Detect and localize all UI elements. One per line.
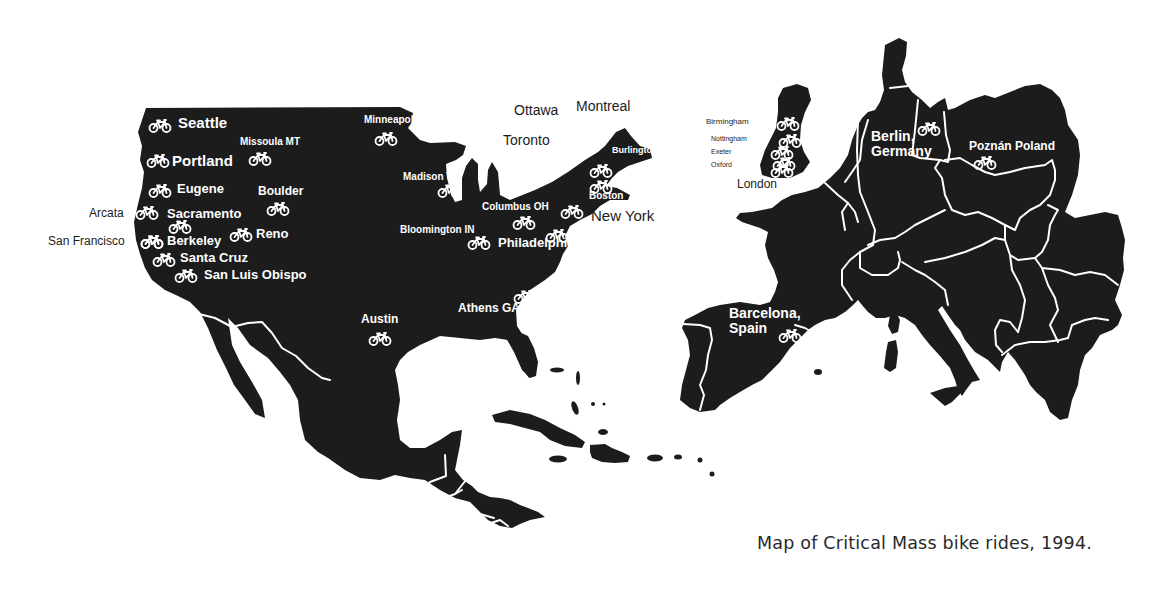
bicycle-icon — [973, 156, 997, 170]
city-label: Berkeley — [167, 234, 221, 247]
city-name: Seattle — [178, 115, 227, 130]
map-caption: Map of Critical Mass bike rides, 1994. — [757, 533, 1092, 553]
city-name: Reno — [256, 227, 289, 240]
city-name: Sacramento — [167, 207, 241, 220]
city-name: San Francisco — [48, 235, 125, 247]
bicycle-icon — [437, 184, 461, 198]
city-label: Montreal — [576, 99, 630, 113]
city-label: Nottingham — [711, 135, 747, 142]
city-label: Arcata — [89, 207, 124, 219]
caribbean-islands — [492, 368, 715, 477]
city-label: Berlin,Germany — [871, 129, 932, 158]
europe-landmass — [680, 38, 1125, 420]
bicycle-icon — [248, 152, 272, 166]
bicycle-icon — [266, 202, 290, 216]
city-label: Birmingham — [706, 118, 749, 126]
city-name: Athens GA — [458, 302, 520, 314]
city-name: Boston — [589, 191, 623, 201]
bicycle-icon — [374, 132, 398, 146]
city-label: Ottawa — [514, 103, 558, 117]
city-label: Santa Cruz — [180, 251, 248, 264]
bicycle-icon — [770, 164, 794, 178]
city-name: London — [737, 178, 777, 190]
bicycle-icon — [148, 184, 172, 198]
bicycle-icon — [148, 119, 172, 133]
city-name: San Luis Obispo — [204, 268, 307, 281]
bicycle-icon — [229, 228, 253, 242]
city-label: Exeter — [711, 148, 731, 155]
city-label: Madison WI — [403, 172, 459, 182]
bicycle-icon — [589, 164, 613, 178]
city-name: Bloomington IN — [400, 225, 474, 235]
city-label: Barcelona,Spain — [729, 306, 801, 335]
city-name: New York — [591, 208, 654, 223]
city-name: Austin — [361, 313, 398, 325]
city-label: San Francisco — [48, 235, 125, 247]
city-label: Portland — [172, 153, 233, 168]
city-name: Berkeley — [167, 234, 221, 247]
city-name: Exeter — [711, 148, 731, 155]
bicycle-icon — [560, 205, 584, 219]
city-name: Minneapolis — [364, 115, 422, 125]
bicycle-icon — [152, 253, 176, 267]
city-name: Montreal — [576, 99, 630, 113]
city-label: Missoula MT — [240, 137, 300, 147]
bicycle-icon — [135, 206, 159, 220]
city-name: Arcata — [89, 207, 124, 219]
city-label: San Luis Obispo — [204, 268, 307, 281]
city-label: Minneapolis — [364, 115, 422, 125]
city-label: Austin — [361, 313, 398, 325]
city-label: Seattle — [178, 115, 227, 130]
city-name: Nottingham — [711, 135, 747, 142]
bicycle-icon — [140, 235, 164, 249]
city-label: New York — [591, 208, 654, 223]
city-name: Eugene — [177, 182, 224, 195]
city-name: Columbus OH — [482, 202, 549, 212]
bicycle-icon — [532, 150, 556, 164]
city-label: Poznán Poland — [969, 140, 1055, 152]
bicycle-icon — [368, 332, 392, 346]
city-name: Oxford — [711, 161, 732, 168]
city-label: Columbus OH — [482, 202, 549, 212]
city-label: Boulder — [258, 185, 303, 197]
bicycle-icon — [583, 117, 607, 131]
bicycle-icon — [467, 236, 491, 250]
city-name: Portland — [172, 153, 233, 168]
city-name: Burlington, VT — [612, 146, 674, 155]
city-label: London — [737, 178, 777, 190]
city-name: Boulder — [258, 185, 303, 197]
city-name: Poznán Poland — [969, 140, 1055, 152]
world-map — [0, 0, 1167, 596]
city-label: Reno — [256, 227, 289, 240]
bicycle-icon — [512, 216, 536, 230]
city-name: Madison WI — [403, 172, 459, 182]
city-name: Barcelona,Spain — [729, 306, 801, 335]
city-label: Boston — [589, 191, 623, 201]
city-label: Oxford — [711, 161, 732, 168]
city-label: Athens GA — [458, 302, 520, 314]
city-label: Eugene — [177, 182, 224, 195]
city-label: Philadelphia — [498, 236, 575, 249]
city-label: Bloomington IN — [400, 225, 474, 235]
city-name: Philadelphia — [498, 236, 575, 249]
bicycle-icon — [174, 269, 198, 283]
city-name: Ottawa — [514, 103, 558, 117]
city-name: Missoula MT — [240, 137, 300, 147]
city-name: Berlin,Germany — [871, 129, 932, 158]
city-name: Toronto — [503, 133, 550, 147]
city-name: Birmingham — [706, 118, 749, 126]
city-name: Santa Cruz — [180, 251, 248, 264]
city-label: Sacramento — [167, 207, 241, 220]
city-label: Toronto — [503, 133, 550, 147]
bicycle-icon — [146, 154, 170, 168]
bicycle-icon — [168, 220, 192, 234]
city-label: Burlington, VT — [612, 146, 674, 155]
bicycle-icon — [776, 117, 800, 131]
